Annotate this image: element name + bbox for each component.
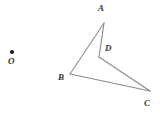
label-d: D [105,44,112,53]
geometry-figure-svg [0,0,160,115]
label-o: O [8,57,15,66]
label-a: A [98,4,104,13]
segment-ab [70,23,104,74]
segment-ad [99,23,104,57]
segments-group [70,23,150,91]
point-dot-o [10,50,14,54]
geometry-figure-canvas: OADBC [0,0,160,115]
label-c: C [144,99,150,108]
label-b: B [58,73,64,82]
points-group [10,50,14,54]
